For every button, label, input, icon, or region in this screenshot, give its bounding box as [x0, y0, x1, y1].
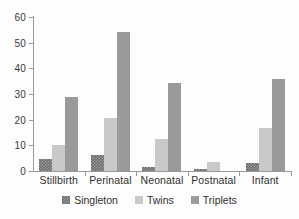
bar-twins-postnatal[interactable] [207, 162, 220, 171]
y-axis-tick [29, 171, 33, 172]
legend-swatch-icon [135, 196, 143, 204]
legend-swatch-icon [62, 196, 70, 204]
legend-label: Twins [147, 194, 174, 206]
bar-triplets-stillbirth[interactable] [65, 97, 78, 171]
bar-singleton-infant[interactable] [246, 163, 259, 171]
y-axis-tick-label: 20 [14, 114, 26, 125]
category-label-infant: Infant [239, 174, 291, 186]
bar-twins-infant[interactable] [259, 128, 272, 171]
bar-triplets-perinatal[interactable] [117, 32, 130, 171]
bar-twins-stillbirth[interactable] [52, 145, 65, 171]
bar-triplets-infant[interactable] [272, 79, 285, 171]
x-axis-separator [291, 171, 292, 176]
y-axis-tick-label: 60 [14, 12, 26, 23]
plot-area: 0102030405060 [33, 17, 291, 171]
legend-item-triplets[interactable]: Triplets [191, 194, 237, 206]
y-axis-tick-label: 30 [14, 89, 26, 100]
legend-swatch-icon [191, 196, 199, 204]
bar-singleton-stillbirth[interactable] [39, 159, 52, 171]
bar-group [239, 17, 291, 171]
legend-item-singleton[interactable]: Singleton [62, 194, 118, 206]
bar-twins-neonatal[interactable] [155, 139, 168, 171]
bar-chart: 0102030405060 StillbirthPerinatalNeonata… [0, 0, 299, 219]
legend-item-twins[interactable]: Twins [135, 194, 174, 206]
x-axis-line [33, 171, 291, 172]
bar-singleton-neonatal[interactable] [142, 167, 155, 171]
category-label-perinatal: Perinatal [85, 174, 137, 186]
bar-singleton-postnatal[interactable] [194, 169, 207, 171]
category-label-neonatal: Neonatal [136, 174, 188, 186]
y-axis-tick-label: 0 [20, 166, 26, 177]
category-label-stillbirth: Stillbirth [33, 174, 85, 186]
category-label-postnatal: Postnatal [188, 174, 240, 186]
y-axis-tick-label: 50 [14, 37, 26, 48]
bar-group [33, 17, 85, 171]
chart-legend: SingletonTwinsTriplets [0, 194, 299, 206]
bar-group [85, 17, 137, 171]
legend-label: Singleton [74, 194, 118, 206]
bar-triplets-neonatal[interactable] [168, 83, 181, 171]
y-axis-tick-label: 40 [14, 63, 26, 74]
bar-triplets-postnatal[interactable] [220, 171, 233, 172]
bar-group [188, 17, 240, 171]
bar-singleton-perinatal[interactable] [91, 155, 104, 171]
bar-twins-perinatal[interactable] [104, 118, 117, 171]
bar-group [136, 17, 188, 171]
y-axis-tick-label: 10 [14, 140, 26, 151]
legend-label: Triplets [203, 194, 237, 206]
